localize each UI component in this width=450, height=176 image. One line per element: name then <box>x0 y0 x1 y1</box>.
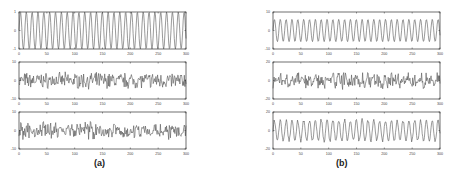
x-tick-label: 300 <box>437 152 443 156</box>
subplot-a3: 050100150200250300-10010 <box>0 104 192 156</box>
subplot-b1: 050100150200250300-10010 <box>254 4 446 56</box>
y-tick-label: 0 <box>14 79 16 83</box>
y-tick-label: -10 <box>265 47 270 51</box>
subplot-a1: 050100150200250300-101 <box>0 4 192 56</box>
y-tick-label: 10 <box>266 10 270 14</box>
x-tick-label: 250 <box>409 152 415 156</box>
x-tick-label: 50 <box>45 152 49 156</box>
x-tick-label: 150 <box>100 152 106 156</box>
y-tick-label: 0 <box>14 129 16 133</box>
x-tick-label: 0 <box>18 152 20 156</box>
y-tick-label: 1 <box>14 10 16 14</box>
x-tick-label: 50 <box>299 152 303 156</box>
y-tick-label: 20 <box>266 60 270 64</box>
caption-b: (b) <box>336 158 348 168</box>
y-tick-label: 0 <box>14 29 16 33</box>
y-tick-label: 0 <box>268 129 270 133</box>
x-tick-label: 300 <box>183 152 189 156</box>
subplot-b3: 050100150200250300-20020 <box>254 104 446 156</box>
plot-frame <box>273 112 440 149</box>
y-tick-label: 20 <box>266 110 270 114</box>
x-tick-label: 150 <box>354 152 360 156</box>
y-tick-label: 0 <box>268 29 270 33</box>
x-tick-label: 200 <box>127 152 133 156</box>
caption-a: (a) <box>94 158 105 168</box>
subplot-b2: 050100150200250300-20020 <box>254 54 446 106</box>
subplot-a2: 050100150200250300-10010 <box>0 54 192 106</box>
y-tick-label: -1 <box>13 47 16 51</box>
y-tick-label: -20 <box>265 147 270 151</box>
x-tick-label: 0 <box>272 152 274 156</box>
x-tick-label: 250 <box>155 152 161 156</box>
y-tick-label: -10 <box>11 147 16 151</box>
y-tick-label: 10 <box>12 60 16 64</box>
y-tick-label: 10 <box>12 110 16 114</box>
y-tick-label: -20 <box>265 97 270 101</box>
y-tick-label: -10 <box>11 97 16 101</box>
x-tick-label: 100 <box>72 152 78 156</box>
x-tick-label: 100 <box>326 152 332 156</box>
plot-frame <box>19 12 186 49</box>
plot-frame <box>273 12 440 49</box>
y-tick-label: 0 <box>268 79 270 83</box>
x-tick-label: 200 <box>381 152 387 156</box>
